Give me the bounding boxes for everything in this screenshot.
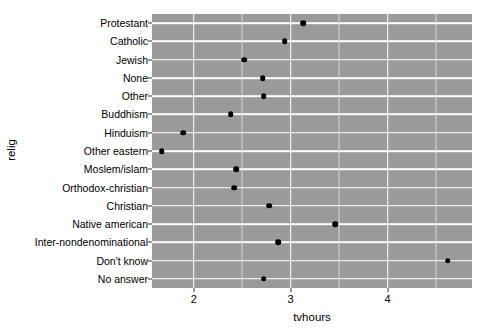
y-axis-tick-label: Hinduism bbox=[16, 127, 148, 138]
gridline-horizontal bbox=[152, 168, 472, 170]
y-axis-tick-label: Native american bbox=[16, 219, 148, 230]
x-axis-title: tvhours bbox=[152, 311, 472, 323]
data-point bbox=[282, 39, 288, 45]
y-axis-tick-label: Catholic bbox=[16, 36, 148, 47]
x-axis-tick-mark bbox=[193, 288, 194, 292]
gridline-vertical-minor bbox=[339, 14, 340, 288]
y-axis-tick-label: Don't know bbox=[16, 255, 148, 266]
data-point bbox=[159, 148, 165, 154]
gridline-horizontal bbox=[152, 41, 472, 43]
x-axis-tick-label: 3 bbox=[288, 293, 294, 305]
y-axis-tick-label: Inter-nondenominational bbox=[16, 237, 148, 248]
data-point bbox=[300, 20, 306, 26]
gridline-horizontal bbox=[152, 223, 472, 225]
gridline-vertical-minor bbox=[242, 14, 243, 288]
gridline-horizontal bbox=[152, 22, 472, 24]
y-axis-tick-label: Orthodox-christian bbox=[16, 182, 148, 193]
y-axis-tick-label: No answer bbox=[16, 274, 148, 285]
gridline-horizontal bbox=[152, 77, 472, 79]
gridline-vertical-minor bbox=[436, 14, 437, 288]
gridline-vertical-major bbox=[290, 14, 292, 288]
y-axis-tick-group: ProtestantCatholicJewishNoneOtherBuddhis… bbox=[12, 0, 148, 336]
data-point bbox=[261, 276, 267, 282]
data-point bbox=[267, 203, 273, 209]
data-point bbox=[332, 221, 338, 227]
y-axis-tick-label: Moslem/islam bbox=[16, 164, 148, 175]
gridline-vertical-major bbox=[387, 14, 389, 288]
data-point bbox=[275, 240, 281, 246]
gridline-horizontal bbox=[152, 132, 472, 134]
data-point bbox=[241, 57, 247, 63]
data-point bbox=[261, 93, 267, 99]
y-axis-tick-label: Protestant bbox=[16, 18, 148, 29]
gridline-vertical-major bbox=[193, 14, 195, 288]
y-axis-tick-label: Jewish bbox=[16, 54, 148, 65]
data-point bbox=[234, 166, 240, 172]
x-axis-tick-group: 234 bbox=[0, 288, 486, 312]
data-point bbox=[180, 130, 186, 136]
data-point bbox=[232, 185, 238, 191]
data-point bbox=[260, 75, 266, 81]
scatter-plot: relig ProtestantCatholicJewishNoneOtherB… bbox=[0, 0, 486, 336]
gridline-horizontal bbox=[152, 242, 472, 244]
gridline-horizontal bbox=[152, 59, 472, 61]
gridline-horizontal bbox=[152, 150, 472, 152]
gridline-horizontal bbox=[152, 278, 472, 280]
y-axis-tick-label: None bbox=[16, 73, 148, 84]
gridline-horizontal bbox=[152, 114, 472, 116]
data-point bbox=[445, 258, 451, 264]
gridline-horizontal bbox=[152, 95, 472, 97]
gridline-horizontal bbox=[152, 187, 472, 189]
gridline-horizontal bbox=[152, 205, 472, 207]
x-axis-tick-label: 2 bbox=[191, 293, 197, 305]
gridline-horizontal bbox=[152, 260, 472, 262]
y-axis-tick-label: Other eastern bbox=[16, 146, 148, 157]
x-axis-tick-label: 4 bbox=[385, 293, 391, 305]
x-axis-tick-mark bbox=[387, 288, 388, 292]
x-axis-tick-mark bbox=[290, 288, 291, 292]
y-axis-tick-label: Buddhism bbox=[16, 109, 148, 120]
data-point bbox=[228, 112, 234, 118]
plot-panel bbox=[152, 14, 472, 288]
y-axis-tick-label: Other bbox=[16, 91, 148, 102]
y-axis-tick-label: Christian bbox=[16, 201, 148, 212]
